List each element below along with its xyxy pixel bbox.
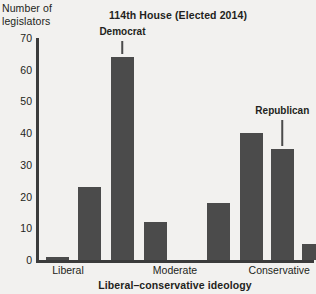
series-annotation-leader-line: [122, 41, 124, 54]
series-annotation-leader-line: [282, 120, 284, 145]
x-axis-title: Liberal–conservative ideology: [36, 279, 314, 291]
y-tick-label: 50: [10, 95, 32, 107]
x-tick-label: Moderate: [153, 264, 197, 276]
bar: [302, 244, 316, 260]
y-tick-label: 60: [10, 64, 32, 76]
y-tick-label: 0: [10, 254, 32, 266]
bar: [207, 203, 230, 260]
bar: [240, 133, 263, 260]
bar: [271, 149, 294, 260]
chart-title: 114th House (Elected 2014): [78, 9, 278, 21]
y-tick-label: 10: [10, 222, 32, 234]
y-tick-label: 30: [10, 159, 32, 171]
y-tick-label: 40: [10, 127, 32, 139]
bar: [46, 257, 69, 260]
y-axis-title-line1: Number of: [2, 2, 52, 14]
x-axis-tick-labels: LiberalModerateConservative: [36, 264, 314, 280]
x-tick-label: Conservative: [249, 264, 310, 276]
bar: [111, 57, 134, 260]
x-tick-label: Liberal: [52, 264, 84, 276]
y-axis-tick-labels: 010203040506070: [8, 38, 32, 260]
y-axis-title-line2: legislators: [2, 15, 50, 27]
series-annotation-label: Republican: [255, 105, 309, 116]
bar: [78, 187, 101, 260]
series-annotation-label: Democrat: [99, 26, 145, 37]
y-axis-line: [36, 38, 39, 260]
y-tick-label: 70: [10, 32, 32, 44]
plot-area: DemocratRepublican: [36, 38, 314, 260]
y-axis-title: Number oflegislators: [2, 2, 52, 27]
x-axis-line: [36, 260, 314, 263]
y-tick-label: 20: [10, 191, 32, 203]
bar: [144, 222, 167, 260]
bar-chart: Number oflegislators 114th House (Electe…: [0, 0, 316, 294]
